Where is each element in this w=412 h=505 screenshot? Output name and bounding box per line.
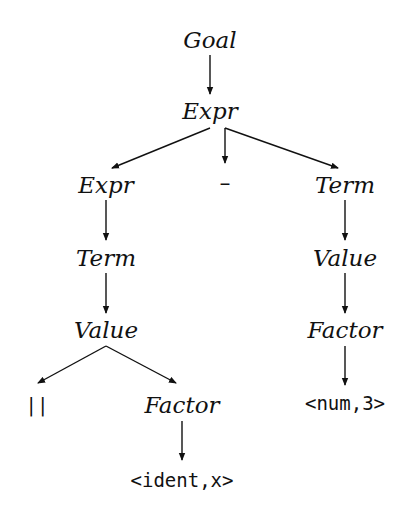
edge-arrow-expr_root-to-term_right bbox=[225, 128, 338, 168]
node-num-3-terminal: <num,3> bbox=[305, 394, 385, 413]
node-bars-terminal: || bbox=[26, 396, 49, 415]
node-expr-left: Expr bbox=[78, 174, 133, 197]
parse-tree-diagram: Goal Expr Expr – Term Term Value Value F… bbox=[0, 0, 412, 505]
node-term-left: Term bbox=[76, 247, 136, 270]
node-value-left: Value bbox=[74, 319, 138, 342]
node-factor-right: Factor bbox=[307, 319, 382, 342]
edge-arrow-value_left-to-factor_left bbox=[106, 346, 176, 383]
node-minus-terminal: – bbox=[220, 172, 231, 194]
node-ident-x-terminal: <ident,x> bbox=[131, 471, 234, 490]
node-factor-left: Factor bbox=[144, 394, 219, 417]
node-value-right: Value bbox=[313, 247, 377, 270]
edge-arrow-expr_root-to-expr_left bbox=[112, 128, 210, 168]
node-expr-root: Expr bbox=[182, 100, 237, 123]
node-term-right: Term bbox=[315, 174, 375, 197]
node-goal: Goal bbox=[183, 29, 236, 52]
edge-arrow-value_left-to-bars bbox=[38, 346, 106, 383]
